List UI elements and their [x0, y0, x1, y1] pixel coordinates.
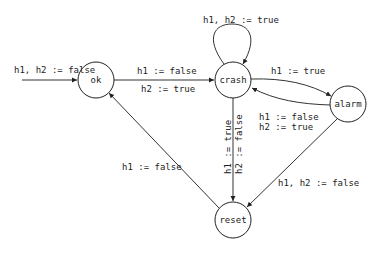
- edge-alarm-reset: [247, 119, 337, 207]
- edge-crash-self-label: h1, h2 := true: [203, 15, 279, 25]
- edge-crash-reset-label-2: h2 := false: [234, 114, 244, 174]
- edge-crash-self: [213, 24, 250, 64]
- edge-reset-ok: [109, 93, 219, 208]
- edge-alarm-crash: [252, 88, 330, 105]
- state-diagram: ok crash alarm reset h1, h2 := false h1 …: [0, 0, 378, 254]
- edge-ok-crash-label-bottom: h2 := true: [141, 84, 195, 94]
- edge-reset-ok-label: h1 := false: [122, 162, 182, 172]
- state-reset[interactable]: reset: [215, 202, 251, 238]
- edge-alarm-reset-label: h1, h2 := false: [278, 178, 359, 188]
- state-ok-label: ok: [91, 75, 102, 85]
- state-crash-label: crash: [219, 75, 246, 85]
- edge-crash-reset-label-1: h1 := true: [223, 120, 233, 174]
- edge-crash-alarm-label: h1 := true: [271, 66, 325, 76]
- edge-alarm-crash-label-2: h2 := true: [259, 122, 313, 132]
- edge-ok-crash-label-top: h1 := false: [137, 66, 197, 76]
- state-reset-label: reset: [219, 215, 246, 225]
- state-alarm-label: alarm: [334, 99, 361, 109]
- edge-init-label: h1, h2 := false: [14, 65, 95, 75]
- edge-alarm-crash-label-1: h1 := false: [259, 112, 319, 122]
- state-crash[interactable]: crash: [215, 62, 251, 98]
- state-alarm[interactable]: alarm: [330, 86, 366, 122]
